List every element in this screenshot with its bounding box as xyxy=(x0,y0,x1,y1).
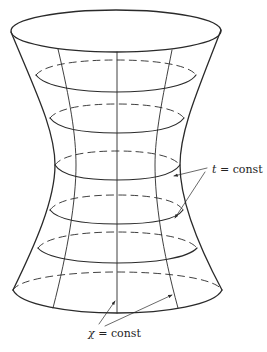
chi-const-label: χ = const xyxy=(87,327,141,340)
t-const-label: t = const xyxy=(212,163,263,176)
chi-line-right xyxy=(155,50,178,308)
t-pointer-2 xyxy=(175,172,205,218)
top-rim xyxy=(11,10,221,52)
t-pointer-1 xyxy=(174,168,207,176)
t-slice-4-back xyxy=(50,195,183,210)
bottom-rim-back xyxy=(13,272,222,290)
t-slice-1-back xyxy=(36,60,196,75)
bottom-rim-front xyxy=(13,290,222,313)
t-slice-1-front xyxy=(36,75,196,92)
hyperboloid-diagram: t = const χ = const xyxy=(0,0,267,352)
right-silhouette xyxy=(180,30,222,290)
t-slice-5-front xyxy=(38,248,197,263)
t-slice-3-back xyxy=(55,151,180,165)
left-silhouette xyxy=(11,32,55,290)
t-slice-4-front xyxy=(50,210,183,224)
t-slice-5-back xyxy=(38,232,197,248)
t-slice-3-front xyxy=(55,165,180,180)
